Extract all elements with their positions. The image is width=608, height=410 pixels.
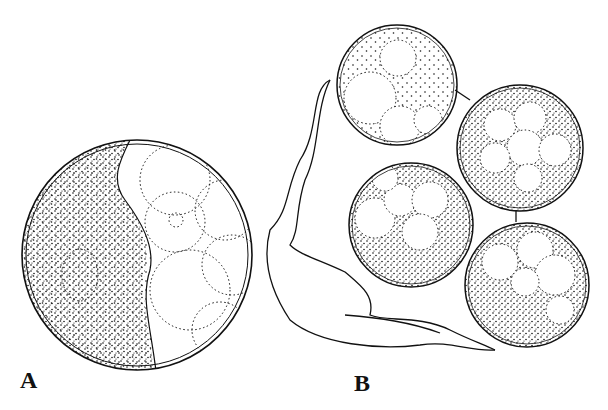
panel-label-a: A xyxy=(20,367,37,394)
panel-b-cyst-1 xyxy=(335,25,460,150)
panel-b-cyst-2 xyxy=(455,83,585,213)
panel-b-cyst-4 xyxy=(462,220,592,350)
illustration xyxy=(0,0,608,410)
panel-label-b: B xyxy=(354,370,370,397)
panel-a-cyst xyxy=(20,140,262,380)
panel-b-cyst-3 xyxy=(345,160,475,290)
